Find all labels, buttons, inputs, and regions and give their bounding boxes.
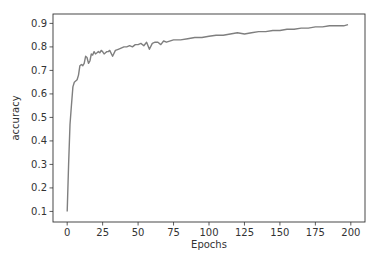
y-axis-ticks: 0.10.20.30.40.50.60.70.80.9: [31, 18, 53, 217]
x-tick-label: 75: [167, 227, 180, 238]
y-tick-label: 0.2: [31, 182, 47, 193]
y-tick-label: 0.5: [31, 112, 47, 123]
x-tick-label: 50: [132, 227, 145, 238]
y-tick-label: 0.1: [31, 206, 47, 217]
y-tick-label: 0.9: [31, 18, 47, 29]
x-tick-label: 200: [341, 227, 360, 238]
x-tick-label: 0: [64, 227, 70, 238]
y-tick-label: 0.6: [31, 88, 47, 99]
plot-area: [53, 14, 365, 222]
x-axis-ticks: 0255075100125150175200: [64, 222, 360, 238]
y-tick-label: 0.3: [31, 159, 47, 170]
x-tick-label: 175: [306, 227, 325, 238]
x-tick-label: 125: [235, 227, 254, 238]
accuracy-line-chart: 0255075100125150175200 0.10.20.30.40.50.…: [0, 0, 384, 264]
y-tick-label: 0.7: [31, 65, 47, 76]
x-tick-label: 150: [270, 227, 289, 238]
y-tick-label: 0.8: [31, 41, 47, 52]
x-tick-label: 100: [199, 227, 218, 238]
x-tick-label: 25: [96, 227, 109, 238]
y-tick-label: 0.4: [31, 135, 47, 146]
y-axis-label: accuracy: [10, 95, 21, 140]
x-axis-label: Epochs: [191, 239, 227, 250]
